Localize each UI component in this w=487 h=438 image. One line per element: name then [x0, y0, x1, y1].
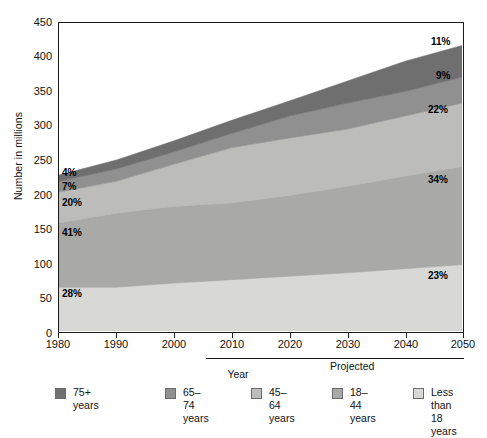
- x-tick-2010: 2010: [209, 338, 255, 350]
- y-tick-150: 150: [12, 224, 52, 235]
- stacked-area-svg: [59, 23, 462, 331]
- x-tick-2040: 2040: [383, 338, 429, 350]
- legend-swatch-65-74: [165, 388, 176, 399]
- legend-swatch-75-plus: [55, 388, 66, 399]
- pct-left-under-18: 28%: [62, 288, 82, 299]
- x-tick-1990: 1990: [93, 338, 139, 350]
- x-tick-1980: 1980: [35, 338, 81, 350]
- y-tick-350: 350: [12, 86, 52, 97]
- pct-left-45-64: 20%: [62, 197, 82, 208]
- pct-right-45-64: 22%: [428, 104, 448, 115]
- x-tick-2000: 2000: [151, 338, 197, 350]
- y-tick-300: 300: [12, 120, 52, 131]
- pct-left-75-plus: 4%: [62, 167, 76, 178]
- legend-label-75-plus: 75+ years: [73, 386, 99, 412]
- y-tick-50: 50: [12, 293, 52, 304]
- y-axis-ticks: 450 400 350 300 250 200 150 100 50 0: [8, 0, 52, 416]
- x-tick-2020: 2020: [267, 338, 313, 350]
- y-tick-200: 200: [12, 190, 52, 201]
- chart-legend: 75+ years 65–74 years 45–64 years 18–44 …: [55, 387, 487, 416]
- pct-right-under-18: 23%: [428, 270, 448, 281]
- pct-right-75-plus: 11%: [431, 36, 450, 47]
- y-tick-400: 400: [12, 51, 52, 62]
- y-tick-100: 100: [12, 259, 52, 270]
- legend-swatch-18-44: [332, 388, 343, 399]
- pct-left-65-74: 7%: [62, 181, 76, 192]
- x-tick-2050: 2050: [440, 338, 486, 350]
- pct-left-18-44: 41%: [62, 227, 82, 238]
- legend-label-65-74: 65–74 years: [183, 386, 209, 425]
- pct-right-18-44: 34%: [428, 174, 448, 185]
- y-tick-250: 250: [12, 155, 52, 166]
- x-axis-title: Year: [203, 368, 273, 380]
- x-tick-2030: 2030: [325, 338, 371, 350]
- legend-swatch-45-64: [251, 388, 262, 399]
- projected-label: Projected: [330, 360, 374, 372]
- legend-label-18-44: 18–44 years: [350, 386, 376, 425]
- y-tick-450: 450: [12, 17, 52, 28]
- pct-right-65-74: 9%: [436, 70, 450, 81]
- legend-swatch-less-than-18: [413, 388, 424, 399]
- legend-label-45-64: 45–64 years: [269, 386, 295, 425]
- plot-area: [58, 22, 464, 333]
- legend-label-less-than-18: Less than 18 years: [431, 386, 457, 438]
- projected-range-line: [206, 358, 464, 359]
